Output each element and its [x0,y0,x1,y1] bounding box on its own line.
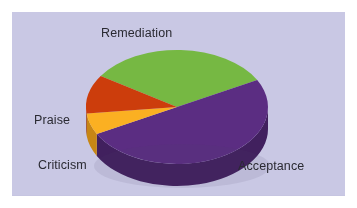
pie-label-acceptance: Acceptance [238,159,304,173]
screenshot-root: Remediation Praise Criticism Acceptance [0,0,357,208]
chart-panel: Remediation Praise Criticism Acceptance [12,12,345,196]
pie-label-remediation: Remediation [101,26,172,40]
pie-label-praise: Praise [34,113,70,127]
pie-label-criticism: Criticism [38,158,87,172]
